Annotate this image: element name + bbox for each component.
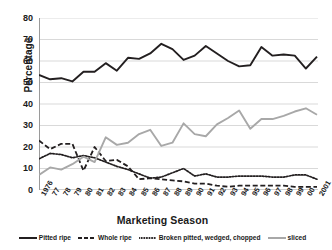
legend-label-1: Whole ripe (98, 234, 132, 242)
y-tick-label-30: 30 (23, 119, 33, 132)
y-tick-label-40: 40 (23, 98, 33, 111)
legend-swatch-icon-3 (268, 235, 286, 241)
y-tick-label-70: 70 (23, 33, 33, 46)
plot-svg (39, 18, 318, 190)
legend-swatch-icon-0 (19, 235, 37, 241)
y-tick-label-10: 10 (23, 162, 33, 175)
legend-label-3: sliced (288, 234, 307, 242)
legend-swatch-icon-1 (78, 235, 96, 241)
legend-item-2[interactable]: Broken pitted, wedged, chopped (139, 234, 261, 242)
legend-item-1[interactable]: Whole ripe (78, 234, 132, 242)
x-axis-title: Marketing Season (0, 214, 325, 226)
legend-item-0[interactable]: Pitted ripe (19, 234, 71, 242)
legend-item-3[interactable]: sliced (268, 234, 307, 242)
y-tick-label-50: 50 (23, 76, 33, 89)
legend-swatch-icon-2 (139, 235, 157, 241)
y-tick-label-80: 80 (23, 12, 33, 25)
x-tick-label-2001: 2001 (317, 179, 332, 197)
legend-label-2: Broken pitted, wedged, chopped (159, 234, 261, 242)
y-axis-tick-labels: 80706050403020100 (0, 11, 36, 193)
chart-legend: Pitted ripeWhole ripeBroken pitted, wedg… (0, 230, 325, 246)
y-tick-label-60: 60 (23, 55, 33, 68)
y-tick-label-20: 20 (23, 141, 33, 154)
legend-label-0: Pitted ripe (39, 234, 71, 242)
plot-area (39, 18, 318, 190)
y-tick-label-0: 0 (28, 184, 33, 197)
